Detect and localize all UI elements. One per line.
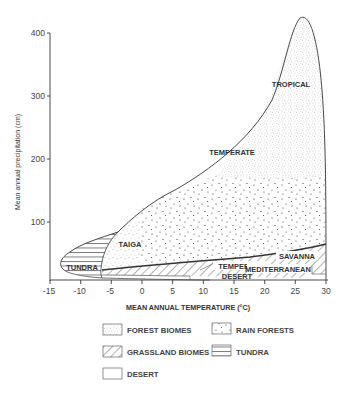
legend: FOREST BIOMES RAIN FORESTS GRASSLAND BIO… [103, 323, 294, 379]
x-tick-15: 15 [229, 286, 239, 296]
x-tick-25: 25 [291, 286, 301, 296]
x-tick-20: 20 [260, 286, 270, 296]
grassland-swatch-icon [103, 346, 122, 357]
y-tick-300: 300 [31, 91, 45, 101]
x-tick-30: 30 [321, 286, 331, 296]
legend-label-desert: DESERT [127, 370, 159, 379]
label-temperate-forest: TEMPERATE [209, 148, 255, 157]
tundra-swatch-icon [212, 345, 231, 356]
y-axis-title: Mean annual precipitation (cm) [14, 114, 22, 210]
legend-label-tundra: TUNDRA [236, 348, 269, 357]
label-tundra: TUNDRA [66, 263, 98, 272]
x-tick-neg15: -15 [43, 286, 56, 296]
label-taiga: TAIGA [119, 240, 142, 249]
y-tick-200: 200 [31, 154, 45, 164]
legend-item-desert: DESERT [103, 368, 159, 379]
label-tropical: TROPICAL [272, 80, 311, 89]
x-tick-neg10: -10 [74, 286, 87, 296]
label-mediterranean: MEDITERRANEAN [245, 265, 311, 274]
legend-label-grassland: GRASSLAND BIOMES [127, 348, 209, 357]
legend-label-rain: RAIN FORESTS [236, 326, 294, 335]
legend-item-rain: RAIN FORESTS [212, 323, 294, 335]
legend-item-grassland: GRASSLAND BIOMES [103, 346, 209, 357]
x-axis-title: MEAN ANNUAL TEMPERATURE (°C) [126, 303, 251, 312]
rain-swatch-icon [212, 323, 231, 334]
x-tick-10: 10 [199, 286, 209, 296]
biome-diagram: 100 200 300 400 Mean annual precipitatio… [0, 0, 352, 401]
label-savanna: SAVANNA [279, 252, 316, 261]
desert-swatch-icon [103, 368, 122, 379]
x-axis: -15 -10 -5 0 5 10 15 20 25 30 MEAN ANNUA… [43, 280, 331, 312]
legend-item-forest: FOREST BIOMES [103, 324, 192, 335]
y-tick-400: 400 [31, 28, 45, 38]
x-tick-0: 0 [140, 286, 145, 296]
y-tick-100: 100 [31, 217, 45, 227]
y-axis: 100 200 300 400 Mean annual precipitatio… [14, 28, 50, 281]
x-tick-neg5: -5 [107, 286, 115, 296]
legend-label-forest: FOREST BIOMES [127, 326, 192, 335]
legend-item-tundra: TUNDRA [212, 345, 269, 357]
x-tick-5: 5 [170, 286, 175, 296]
label-desert: DESERT [222, 272, 253, 281]
forest-swatch-icon [103, 324, 122, 335]
